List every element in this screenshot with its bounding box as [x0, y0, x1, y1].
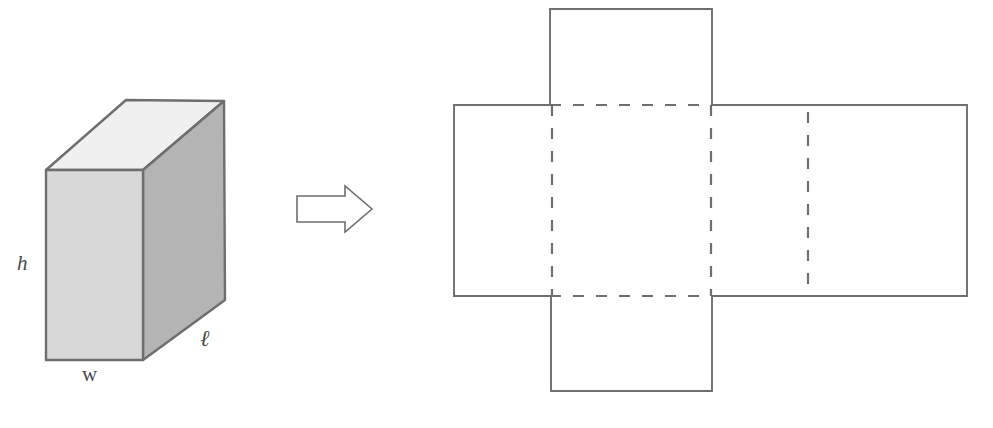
prism-front-face — [46, 170, 143, 360]
prism-net — [454, 9, 967, 391]
geometry-figure: h w ℓ — [0, 0, 993, 428]
prism-height-label: h — [17, 251, 28, 275]
arrow-right-icon — [297, 186, 372, 232]
prism-length-label: ℓ — [200, 326, 210, 351]
unfold-arrow — [297, 186, 372, 232]
rectangular-prism: h w ℓ — [17, 100, 225, 386]
prism-width-label: w — [82, 362, 98, 386]
figure-canvas: h w ℓ — [0, 0, 993, 428]
